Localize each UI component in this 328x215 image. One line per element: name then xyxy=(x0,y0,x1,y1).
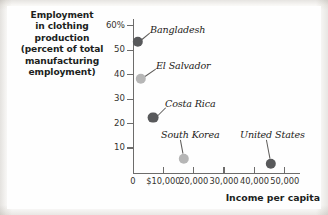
data-point-marker[interactable] xyxy=(135,74,145,84)
y-axis-tick xyxy=(127,25,133,26)
data-point-marker[interactable] xyxy=(266,158,276,168)
data-point-label: United States xyxy=(240,129,305,140)
y-axis-tick-label: 30 xyxy=(99,94,125,103)
data-point-label: Costa Rica xyxy=(165,98,216,109)
x-axis-tick-label: 50,000 xyxy=(255,176,315,186)
x-axis-tick xyxy=(193,167,194,173)
x-axis-title: Income per capita xyxy=(200,192,320,203)
leader-line xyxy=(141,33,150,40)
y-axis-tick xyxy=(127,99,133,100)
x-axis-tick xyxy=(163,167,164,173)
y-axis-tick-label: 60% xyxy=(99,21,125,30)
y-axis-tick xyxy=(127,50,133,51)
data-point-label: South Korea xyxy=(161,129,220,140)
leader-line xyxy=(144,69,156,77)
y-axis-tick-label: 50 xyxy=(99,45,125,54)
y-axis-tick-label: 40 xyxy=(99,70,125,79)
x-axis-tick xyxy=(254,167,255,173)
chart-screenshot: Employment in clothing production (perce… xyxy=(0,0,328,215)
leader-line xyxy=(180,140,184,154)
x-axis-tick xyxy=(284,167,285,173)
x-axis-line xyxy=(133,173,300,174)
y-axis-tick-label: 20 xyxy=(99,119,125,128)
data-point-marker[interactable] xyxy=(148,112,159,123)
y-axis-tick xyxy=(127,74,133,75)
x-axis-tick xyxy=(223,167,224,173)
y-axis-tick-label: 10 xyxy=(99,143,125,152)
data-point-marker[interactable] xyxy=(132,37,142,47)
plot-area: 60%5040302010 0$10,00020,00030,00040,000… xyxy=(0,0,328,215)
data-point-marker[interactable] xyxy=(179,153,189,163)
data-point-label: El Salvador xyxy=(156,60,210,71)
data-point-label: Bangladesh xyxy=(150,24,205,35)
y-axis-tick xyxy=(127,147,133,148)
leader-line xyxy=(266,140,271,159)
y-axis-tick xyxy=(127,123,133,124)
